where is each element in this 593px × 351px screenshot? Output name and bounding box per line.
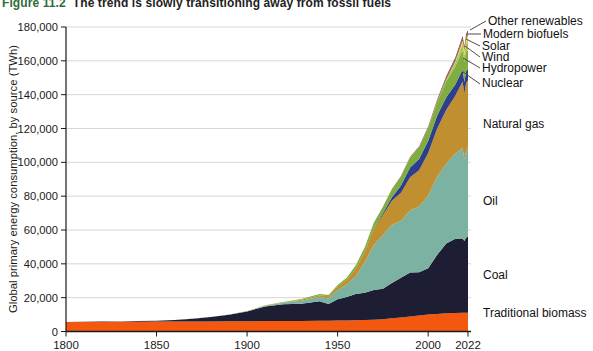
x-tick-label: 2022 xyxy=(455,339,481,351)
x-tick-label: 1850 xyxy=(144,339,170,351)
y-tick-label: 140,000 xyxy=(18,89,58,101)
y-tick-label: 20,000 xyxy=(24,292,58,304)
leader-line-solar xyxy=(466,39,480,46)
x-tick-label: 2000 xyxy=(415,339,441,351)
y-tick-label: 60,000 xyxy=(24,224,58,236)
y-tick-label: 180,000 xyxy=(18,21,58,33)
series-label-nuclear: Nuclear xyxy=(482,77,523,90)
y-tick-label: 100,000 xyxy=(18,156,58,168)
y-tick-label: 160,000 xyxy=(18,55,58,67)
x-tick-label: 1900 xyxy=(234,339,260,351)
series-label-natural-gas: Natural gas xyxy=(483,118,544,131)
series-label-other-renewables: Other renewables xyxy=(488,15,583,28)
series-label-coal: Coal xyxy=(483,269,508,282)
y-tick-label: 40,000 xyxy=(24,258,58,270)
y-tick-label: 120,000 xyxy=(18,123,58,135)
series-label-solar: Solar xyxy=(482,40,510,53)
y-tick-label: 0 xyxy=(52,326,58,338)
series-label-traditional-biomass: Traditional biomass xyxy=(483,307,587,320)
series-label-modern-biofuels: Modern biofuels xyxy=(483,28,568,41)
x-tick-label: 1800 xyxy=(53,339,79,351)
y-tick-label: 80,000 xyxy=(24,190,58,202)
series-label-oil: Oil xyxy=(483,195,498,208)
x-tick-label: 1950 xyxy=(325,339,351,351)
